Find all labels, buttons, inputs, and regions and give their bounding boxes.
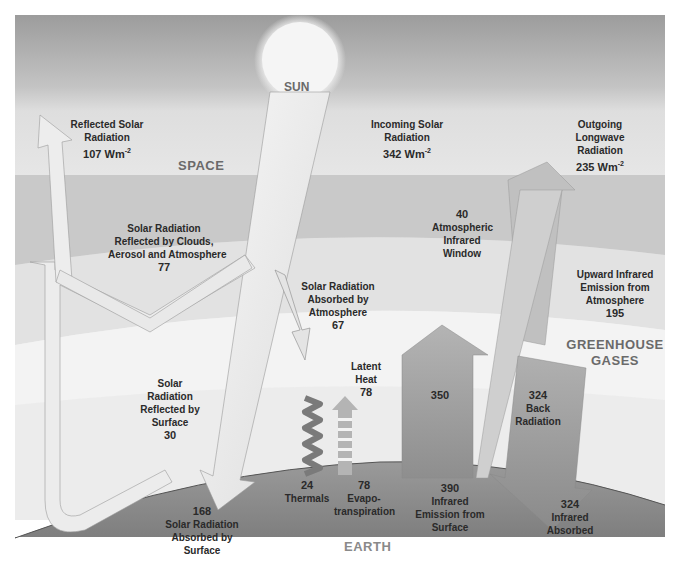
greenhouse-label-line2: GASES [565, 353, 665, 369]
infrared-absorbed-label: 324 Infrared Absorbed [540, 498, 600, 537]
space-label: SPACE [178, 158, 224, 173]
thermals-label: 24 Thermals [282, 479, 332, 505]
incoming-solar-label: Incoming Solar Radiation 342 Wm-2 [362, 118, 452, 161]
evapotranspiration-label: 78 Evapo- transpiration [334, 479, 394, 518]
upward-ir-atmosphere-label: Upward Infrared Emission from Atmosphere… [570, 268, 660, 320]
reflected-solar-label: Reflected Solar Radiation 107 Wm-2 [62, 118, 152, 161]
greenhouse-gases-label: GREENHOUSE GASES [565, 337, 665, 369]
atmospheric-window-label: 40 Atmospheric Infrared Window [432, 208, 492, 260]
outgoing-longwave-label: Outgoing Longwave Radiation 235 Wm-2 [560, 118, 640, 174]
reflected-by-surface-label: Solar Radiation Reflected by Surface 30 [138, 377, 202, 442]
greenhouse-label-line1: GREENHOUSE [565, 337, 665, 353]
back-radiation-label: 324 Back Radiation [508, 389, 568, 428]
absorbed-by-atmosphere-label: Solar Radiation Absorbed by Atmosphere 6… [298, 280, 378, 332]
latent-heat-label: Latent Heat 78 [346, 360, 386, 399]
absorbed-by-surface-label: 168 Solar Radiation Absorbed by Surface [160, 505, 244, 557]
surface-emission-label: 390 Infrared Emission from Surface [410, 482, 490, 534]
energy-budget-diagram: SUN SPACE GREENHOUSE GASES EARTH Reflect… [0, 0, 680, 571]
reflected-by-clouds-label: Solar Radiation Reflected by Clouds, Aer… [108, 222, 220, 274]
surface-ir-350-label: 350 [425, 389, 455, 402]
sun-label: SUN [284, 80, 309, 94]
earth-label: EARTH [344, 539, 391, 554]
